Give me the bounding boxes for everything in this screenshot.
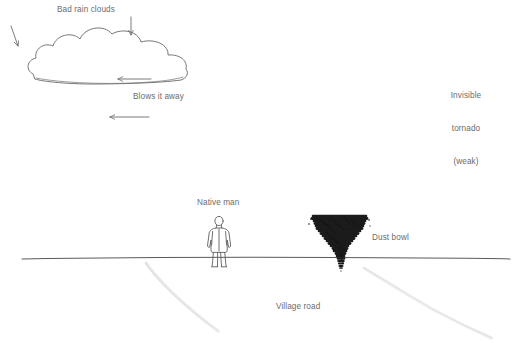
dust-bowl-tornado <box>308 216 371 272</box>
diagram-canvas: Bad rain clouds Blows it away Invisible … <box>0 0 531 343</box>
label-native-man: Native man <box>197 197 239 208</box>
arrow-down-left-icon <box>11 26 18 46</box>
label-invisible-tornado: Invisible tornado (weak) <box>440 68 492 189</box>
label-blows-it-away: Blows it away <box>133 91 184 102</box>
village-road-left-edge <box>146 263 219 332</box>
label-dust-bowl: Dust bowl <box>372 232 409 243</box>
label-invisible-tornado-line1: Invisible <box>440 90 492 101</box>
native-man-figure <box>208 216 231 266</box>
bad-rain-cloud-icon <box>28 28 187 84</box>
label-invisible-tornado-line2: tornado <box>440 123 492 134</box>
label-invisible-tornado-line3: (weak) <box>440 156 492 167</box>
horizon-ground-line <box>22 257 510 259</box>
village-road-right-edge <box>364 268 492 339</box>
label-bad-rain-clouds: Bad rain clouds <box>57 4 115 15</box>
label-village-road: Village road <box>276 301 320 312</box>
